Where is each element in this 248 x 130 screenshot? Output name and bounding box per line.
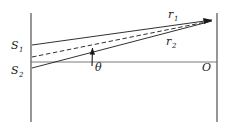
label-theta: θ: [95, 61, 102, 74]
label-origin-o: O: [202, 61, 211, 74]
label-s1-subscript: 1: [19, 46, 23, 54]
ray-diagram-canvas: S 1 S 2 r 1 r 2 θ O: [0, 0, 248, 130]
label-s1: S: [11, 39, 19, 52]
label-r1-subscript: 1: [174, 15, 178, 23]
label-s2-subscript: 2: [18, 71, 24, 79]
label-s2: S: [11, 64, 19, 77]
label-r2-subscript: 2: [171, 42, 177, 50]
theta-indicator-arrow: [92, 48, 93, 66]
ray-r2-line: [32, 21, 212, 68]
ray-r1-line: [32, 20, 212, 45]
optics-diagram-figure: S 1 S 2 r 1 r 2 θ O: [0, 0, 248, 130]
bisector-dashed-line: [32, 21, 211, 57]
